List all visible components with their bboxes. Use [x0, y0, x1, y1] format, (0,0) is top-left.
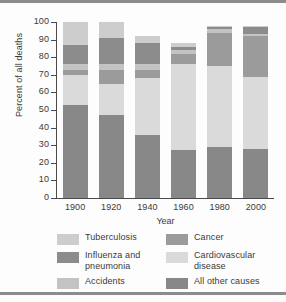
chart-legend: TuberculosisCancerInfluenza and pneumoni… [57, 232, 267, 294]
y-tick-label: 20 [17, 157, 49, 167]
bar-segment [99, 84, 124, 116]
bar-segment [171, 43, 196, 47]
y-tick-label: 70 [17, 69, 49, 79]
bar-stack [171, 22, 196, 198]
y-tick-label: 10 [17, 174, 49, 184]
legend-label: All other causes [194, 276, 260, 287]
legend-swatch [57, 278, 79, 289]
y-tick-mark [51, 110, 57, 111]
y-tick-mark [51, 180, 57, 181]
legend-label: Cancer [194, 232, 224, 243]
bar-segment [171, 150, 196, 198]
bar-segment [243, 77, 268, 149]
bar-segment [135, 70, 160, 79]
bar-segment [63, 75, 88, 105]
bar-segment [243, 36, 268, 76]
y-tick-label: 0 [17, 192, 49, 202]
bar-segment [99, 38, 124, 64]
y-tick-mark [51, 57, 57, 58]
bar-stack [99, 22, 124, 198]
bar-segment [171, 54, 196, 65]
bar-segment [243, 149, 268, 198]
bar-segment [135, 43, 160, 64]
bar-segment [99, 115, 124, 198]
legend-swatch [57, 252, 79, 263]
bar-segment [243, 26, 268, 28]
top-divider-rule [0, 0, 286, 3]
y-tick-mark [51, 40, 57, 41]
bar-segment [243, 34, 268, 36]
legend-item: Cardiovascular disease [166, 250, 267, 275]
bar-segment [207, 26, 232, 28]
bar-segment [207, 27, 232, 29]
bar-stack [243, 22, 268, 198]
legend-label: Accidents [85, 276, 125, 287]
y-tick-label: 30 [17, 139, 49, 149]
y-tick-label: 80 [17, 51, 49, 61]
x-axis-line [56, 198, 274, 199]
y-tick-label: 40 [17, 122, 49, 132]
y-tick-mark [51, 198, 57, 199]
plot-wrapper: Percent of all deaths 010203040506070809… [0, 8, 286, 208]
bar-segment [207, 66, 232, 147]
y-tick-mark [51, 128, 57, 129]
bar-segment [63, 70, 88, 75]
bar-segment [63, 64, 88, 69]
bar-segment [207, 33, 232, 66]
bar-segment [207, 29, 232, 33]
bar-segment [63, 45, 88, 64]
y-tick-label: 90 [17, 34, 49, 44]
bar-segment [171, 64, 196, 150]
legend-label: Tuberculosis [85, 232, 137, 243]
plot-area: 0102030405060708090100 19001920194019601… [57, 22, 274, 198]
y-tick-mark [51, 163, 57, 164]
bar-segment [207, 147, 232, 198]
bar-stack [63, 22, 88, 198]
y-tick-mark [51, 22, 57, 23]
y-tick-label: 60 [17, 86, 49, 96]
x-axis-title: Year [57, 216, 274, 226]
bar-segment [135, 64, 160, 69]
y-tick-label: 50 [17, 104, 49, 114]
bar-segment [135, 78, 160, 134]
legend-item: Cancer [166, 232, 267, 249]
legend-item: Influenza and pneumonia [57, 250, 158, 275]
legend-item: Tuberculosis [57, 232, 158, 249]
legend-swatch [166, 234, 188, 245]
y-tick-mark [51, 92, 57, 93]
bar-segment [135, 135, 160, 198]
y-tick-mark [51, 145, 57, 146]
legend-label: Influenza and pneumonia [85, 250, 140, 272]
bar-segment [63, 22, 88, 45]
bar-segment [243, 27, 268, 34]
legend-label: Cardiovascular disease [194, 250, 255, 272]
x-tick-label: 2000 [234, 202, 278, 212]
bar-segment [171, 47, 196, 51]
legend-swatch [57, 234, 79, 245]
y-tick-mark [51, 75, 57, 76]
bar-segment [99, 22, 124, 38]
figure-panel: Percent of all deaths 010203040506070809… [0, 0, 286, 302]
bar-stack [135, 22, 160, 198]
legend-item: All other causes [166, 276, 267, 293]
bar-segment [171, 50, 196, 54]
legend-swatch [166, 252, 188, 263]
bar-stack [207, 22, 232, 198]
legend-swatch [166, 278, 188, 289]
bar-segment [135, 36, 160, 43]
bar-segment [99, 64, 124, 69]
legend-item: Accidents [57, 276, 158, 293]
bar-segment [99, 70, 124, 84]
y-tick-label: 100 [17, 16, 49, 26]
bar-segment [63, 105, 88, 198]
